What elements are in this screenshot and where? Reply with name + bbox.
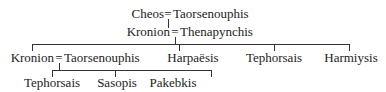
marriage-symbol: = <box>164 6 171 21</box>
couple-kronion-taorsenouphis: Kronion = Taorsenouphis <box>11 50 140 65</box>
marriage-symbol: = <box>55 50 62 65</box>
family-tree: Cheos = Taorsenouphis Kronion = Thenapyn… <box>0 0 386 92</box>
person-tephorsais-child: Tephorsais <box>24 75 80 90</box>
person-harpaesis: Harpaësis <box>167 50 218 65</box>
marriage-symbol: = <box>171 24 178 39</box>
person-cheos: Cheos <box>132 6 165 21</box>
person-thenapynchis: Thenapynchis <box>180 24 253 39</box>
couple-kronion-thenapynchis: Kronion = Thenapynchis <box>127 24 253 39</box>
person-taorsenouphis: Taorsenouphis <box>173 6 249 21</box>
person-pakebkis: Pakebkis <box>150 75 197 90</box>
person-sasopis: Sasopis <box>97 75 137 90</box>
person-taorsenouphis-junior: Taorsenouphis <box>64 50 140 65</box>
person-kronion: Kronion <box>127 24 171 39</box>
couple-cheos-taorsenouphis: Cheos = Taorsenouphis <box>132 6 249 21</box>
person-tephorsais: Tephorsais <box>246 50 302 65</box>
person-harmiysis: Harmiysis <box>324 50 377 65</box>
person-kronion-junior: Kronion <box>11 50 55 65</box>
